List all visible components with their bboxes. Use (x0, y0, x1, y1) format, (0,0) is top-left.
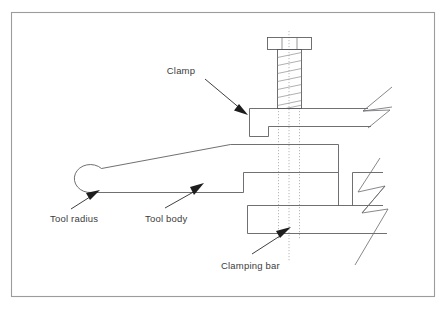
clamp-outline (250, 109, 372, 137)
clamp-part (250, 87, 393, 137)
screw-thread-hatching (278, 53, 302, 109)
clamp-leader-line (205, 79, 242, 110)
clamp-arrowhead (234, 104, 248, 115)
leader-tool-body: Tool body (145, 183, 204, 224)
label-clamping-bar: Clamping bar (221, 260, 280, 271)
clamping-bar-outline (248, 206, 388, 234)
clamping-bar-leader-line (252, 234, 283, 254)
label-tool-body: Tool body (145, 213, 188, 224)
clamping-screw (268, 38, 312, 109)
clamping-diagram: Clamp Tool radius Tool body Clamping bar (0, 0, 447, 312)
clamping-bar-break-line-upper (358, 158, 385, 213)
figure-border (12, 13, 435, 297)
leader-tool-radius: Tool radius (50, 190, 100, 224)
tool-outline (74, 145, 338, 193)
leader-clamp: Clamp (167, 65, 248, 115)
label-tool-radius: Tool radius (50, 213, 98, 224)
label-clamp: Clamp (167, 65, 195, 76)
clamping-bar-part (248, 158, 389, 265)
screw-head (268, 38, 312, 50)
centerlines (279, 31, 300, 262)
tool-part (74, 145, 338, 193)
figure-root: Clamp Tool radius Tool body Clamping bar (0, 0, 447, 312)
clamping-bar-break-line-lower (355, 186, 388, 265)
